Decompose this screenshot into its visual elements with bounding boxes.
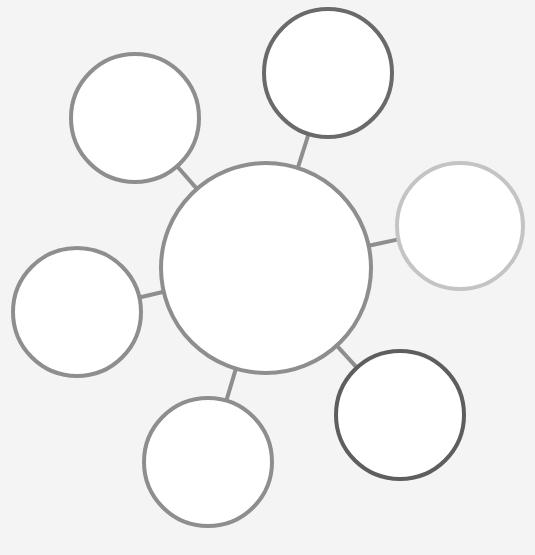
node-bottom-circle bbox=[144, 398, 272, 526]
center-node-circle bbox=[161, 163, 371, 373]
node-top-circle bbox=[264, 9, 392, 137]
connector-bottom bbox=[226, 369, 236, 401]
connector-top-left bbox=[177, 166, 197, 189]
connector-left bbox=[139, 292, 163, 298]
diagram-canvas bbox=[0, 0, 535, 555]
node-left-circle bbox=[13, 248, 141, 376]
node-right bbox=[397, 163, 523, 289]
node-left bbox=[13, 248, 141, 376]
node-top-left bbox=[71, 54, 199, 182]
node-top-left-circle bbox=[71, 54, 199, 182]
center-node bbox=[161, 163, 371, 373]
connector-right bbox=[369, 239, 399, 245]
nodes-group bbox=[13, 9, 523, 526]
node-bottom bbox=[144, 398, 272, 526]
node-bottom-right-circle bbox=[336, 351, 464, 479]
connector-top bbox=[298, 134, 309, 168]
node-right-circle bbox=[397, 163, 523, 289]
connector-bottom-right bbox=[337, 346, 357, 368]
node-top bbox=[264, 9, 392, 137]
node-bottom-right bbox=[336, 351, 464, 479]
bubble-map-diagram bbox=[0, 0, 535, 555]
